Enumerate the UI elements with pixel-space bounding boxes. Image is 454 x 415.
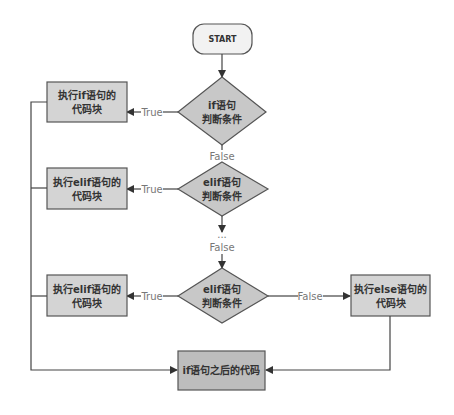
if-code-block: 执行if语句的 代码块 [47,82,127,122]
if-block-line1: 执行if语句的 [58,89,116,101]
if-block-line2: 代码块 [71,103,103,115]
elif2-condition-line2: 判断条件 [202,297,242,309]
else-block-line2: 代码块 [375,297,407,309]
elif2-block-line2: 代码块 [71,297,103,309]
elif1-block-line2: 代码块 [71,190,103,202]
edge-label-true-3: True [140,291,162,302]
edge-else-to-after [266,316,390,370]
if-condition-diamond: if语句 判断条件 [178,77,266,145]
elif2-block-line1: 执行elif语句的 [53,283,121,295]
flowchart-canvas: START if语句 判断条件 True 执行if语句的 代码块 False e… [0,0,454,415]
edge-label-false-1: False [209,151,234,162]
elif-condition-diamond-2: elif语句 判断条件 [178,268,268,323]
edge-label-true-1: True [140,107,162,118]
elif1-condition-line2: 判断条件 [202,190,242,202]
if-condition-line2: 判断条件 [202,113,242,125]
edge-label-true-2: True [140,184,162,195]
after-if-code-block: if语句之后的代码 [178,351,265,390]
edge-label-false-3: False [297,291,322,302]
after-if-label: if语句之后的代码 [183,364,261,376]
else-block-line1: 执行else语句的 [354,283,427,295]
edge-label-ellipsis: ... [217,229,227,240]
edge-left-bus [31,102,177,370]
elif2-condition-line1: elif语句 [203,283,241,295]
else-code-block: 执行else语句的 代码块 [351,275,430,316]
if-condition-line1: if语句 [208,99,236,111]
elif-code-block-2: 执行elif语句的 代码块 [47,275,127,316]
edge-label-false-2: False [209,242,234,253]
elif1-block-line1: 执行elif语句的 [53,176,121,188]
elif1-condition-line1: elif语句 [203,176,241,188]
elif-condition-diamond-1: elif语句 判断条件 [178,162,268,216]
elif-code-block-1: 执行elif语句的 代码块 [47,168,127,209]
start-node: START [193,24,252,54]
start-label: START [208,35,237,44]
